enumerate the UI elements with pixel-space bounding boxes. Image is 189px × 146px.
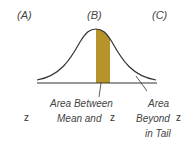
between-z: z — [110, 112, 115, 123]
between-caption-2: Mean and — [57, 111, 101, 126]
column-a-z: z — [24, 112, 29, 123]
beyond-caption-3: in Tail — [145, 126, 171, 141]
beyond-caption-2: Beyond — [136, 111, 170, 126]
between-caption-1: Area Between — [50, 96, 113, 111]
pointer-between — [99, 83, 101, 97]
beyond-caption-1: Area — [148, 96, 169, 111]
beyond-z: z — [176, 112, 181, 123]
shaded-area-mean-to-z — [96, 25, 110, 83]
